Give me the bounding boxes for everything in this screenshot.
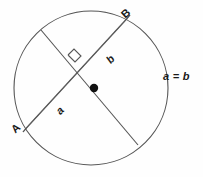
perpendicular-diameter-line [41,30,138,145]
chord-ab-line [23,15,130,132]
geometry-canvas [0,0,203,177]
chord-ab-line-lower [23,20,126,132]
label-equation: a = b [163,71,190,82]
geometry-diagram: A B a b a = b [0,0,203,177]
circle-center-dot [90,84,98,92]
right-angle-marker [68,49,81,62]
